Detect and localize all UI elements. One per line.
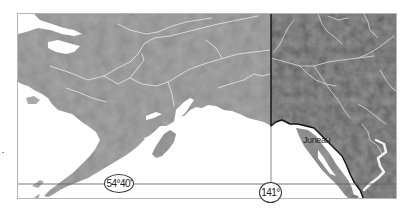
parallel-5440-label: 54°40′ [104, 174, 134, 193]
map-frame [17, 13, 397, 199]
edge-tick-mark [2, 152, 4, 153]
juneau-label: Juneau [303, 135, 330, 145]
meridian-141-label: 141° [259, 182, 282, 203]
map-canvas [18, 14, 397, 199]
